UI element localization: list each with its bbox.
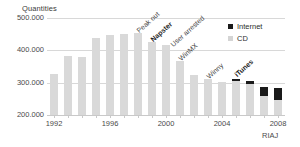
bar-column xyxy=(218,82,226,115)
x-axis-tick-label: 2008 xyxy=(270,119,287,128)
bar-segment-internet xyxy=(274,88,282,100)
bar-column xyxy=(148,42,156,115)
bar-segment-cd xyxy=(148,42,156,115)
y-axis-title: Quantities xyxy=(22,4,57,13)
bar-column xyxy=(134,33,142,115)
bar-column xyxy=(106,35,114,115)
bar-column xyxy=(50,74,58,115)
bar-segment-cd xyxy=(162,45,170,115)
bar-segment-cd xyxy=(106,35,114,115)
legend-item-label: Internet xyxy=(237,22,262,31)
bar-segment-cd xyxy=(232,81,240,115)
bar-segment-cd xyxy=(120,34,128,115)
chart-annotation: Napster xyxy=(149,21,173,44)
bar-segment-internet xyxy=(246,81,254,84)
y-axis-tick-label: 500.000 xyxy=(0,13,44,22)
x-axis-tick-label: 1996 xyxy=(102,119,119,128)
bar-column xyxy=(246,81,254,115)
x-axis-tick-label: 1992 xyxy=(46,119,63,128)
y-axis-tick-label: 300.000 xyxy=(0,78,44,87)
gridline xyxy=(47,18,285,19)
chart-annotation: User arrested xyxy=(169,14,205,48)
bar-segment-cd xyxy=(92,38,100,115)
legend-item[interactable]: CD xyxy=(228,34,262,43)
chart-annotation: Winny xyxy=(205,62,224,80)
x-axis-baseline xyxy=(47,115,285,116)
bar-segment-cd xyxy=(246,84,254,115)
bar-segment-cd xyxy=(50,74,58,115)
legend-item-label: CD xyxy=(237,34,248,43)
y-axis-tick-label: 200.000 xyxy=(0,110,44,119)
bar-segment-cd xyxy=(204,79,212,115)
chart-annotation: WinMX xyxy=(177,41,198,61)
chart-legend: InternetCD xyxy=(228,22,262,46)
quantities-stacked-bar-chart: Quantities 19921996200020042008 Peak out… xyxy=(0,0,300,147)
bar-segment-cd xyxy=(260,96,268,115)
bar-segment-internet xyxy=(232,79,240,81)
chart-annotation: iTunes xyxy=(233,58,254,78)
bar-segment-cd xyxy=(176,61,184,115)
y-axis-tick-label: 400.000 xyxy=(0,45,44,54)
bar-column xyxy=(92,38,100,115)
x-axis-tick-label: 2000 xyxy=(158,119,175,128)
bar-segment-cd xyxy=(190,75,198,115)
bar-segment-cd xyxy=(64,56,72,115)
bar-segment-cd xyxy=(218,82,226,115)
bar-column xyxy=(204,79,212,115)
bar-segment-cd xyxy=(134,33,142,115)
source-label: RIAJ xyxy=(262,131,278,140)
bar-segment-cd xyxy=(78,57,86,115)
bar-column xyxy=(120,34,128,115)
legend-item[interactable]: Internet xyxy=(228,22,262,31)
bar-column xyxy=(176,61,184,115)
internet-swatch-icon xyxy=(228,24,233,29)
bar-column xyxy=(78,57,86,115)
bar-segment-cd xyxy=(274,100,282,115)
x-axis-tick-label: 2004 xyxy=(214,119,231,128)
bar-column xyxy=(274,88,282,115)
bar-column xyxy=(190,75,198,115)
bar-column xyxy=(64,56,72,115)
bar-column xyxy=(162,45,170,115)
bar-column xyxy=(260,87,268,115)
bar-segment-internet xyxy=(260,87,268,96)
bar-column xyxy=(232,79,240,115)
cd-swatch-icon xyxy=(228,36,233,41)
